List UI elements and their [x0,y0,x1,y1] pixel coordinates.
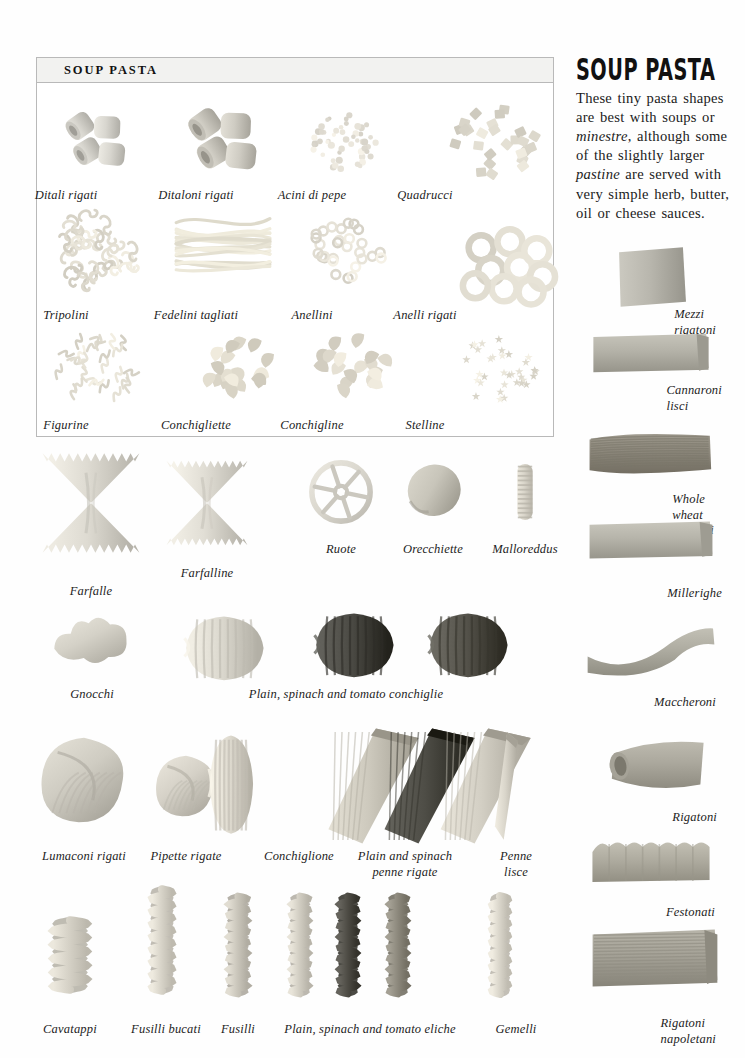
rail-pasta-image-6 [590,837,712,887]
conchiglie-row-image-2 [311,610,397,680]
rail-pasta-caption-1: Cannaroni lisci [666,383,722,414]
soup-pasta-image-9 [187,334,273,396]
fusilli-row-image-4 [335,893,361,997]
penne-row-caption-1: Pipette rigate [150,849,221,865]
soup-pasta-panel-header: SOUP PASTA [37,58,553,83]
soup-pasta-caption-3: Quadrucci [397,188,452,204]
fusilli-row-group-caption: Plain, spinach and tomato eliche [284,1022,455,1038]
rail-pasta-image-1 [591,332,711,374]
sidebar-text-run: These tiny pasta shapes are best with so… [576,90,724,125]
soup-pasta-caption-7: Anelli rigati [393,308,456,324]
rail-pasta-caption-3: Millerighe [667,586,722,602]
farfalle-row-caption-1: Farfalline [181,566,234,582]
conchiglie-row-image-0 [51,614,133,672]
conchiglie-row-group-caption: Plain, spinach and tomato conchiglie [249,687,443,703]
farfalle-row-image-3 [402,463,464,521]
fusilli-row-image-0 [47,918,93,992]
fusilli-row-image-1 [147,886,177,994]
soup-pasta-caption-0: Ditali rigati [35,188,98,204]
farfalle-row-caption-3: Orecchiette [403,542,463,558]
soup-pasta-image-10 [315,339,395,397]
fusilli-row-caption-2: Fusilli [221,1022,255,1038]
farfalle-row-image-0 [36,449,146,557]
fusilli-row-image-2 [224,893,252,997]
rail-pasta-caption-5: Rigatoni [672,810,717,826]
soup-pasta-panel-title: SOUP PASTA [37,63,158,78]
soup-pasta-caption-2: Acini di pepe [278,188,347,204]
soup-pasta-image-4 [54,213,136,287]
penne-row-caption-0: Lumaconi rigati [42,849,126,865]
conchiglie-row-caption-0: Gnocchi [70,687,114,703]
farfalle-row-caption-2: Ruote [326,542,356,558]
soup-pasta-sidebar: SOUP PASTA These tiny pasta shapes are b… [576,52,736,223]
penne-row-image-3 [325,726,495,846]
fusilli-row-image-5 [385,893,411,997]
soup-pasta-caption-11: Stelline [405,418,444,434]
soup-pasta-caption-6: Anellini [291,308,332,324]
soup-pasta-image-0 [57,105,133,175]
fusilli-row-caption-6: Gemelli [496,1022,537,1038]
conchiglie-row-image-1 [181,613,267,683]
penne-row-image-4 [494,730,538,842]
pasta-reference-page: SOUP PASTA Ditali rigatiDitaloni rigatiA… [0,0,745,1058]
penne-row-image-0 [40,734,128,826]
penne-row-caption-4: Penne lisce [500,849,532,880]
farfalle-row-caption-4: Malloreddus [492,542,558,558]
conchiglie-row-image-3 [425,610,511,680]
soup-pasta-caption-9: Conchigliette [161,418,231,434]
sidebar-italic-term: pastine [576,166,620,182]
fusilli-row-caption-0: Cavatappi [43,1022,97,1038]
farfalle-row-caption-0: Farfalle [70,584,113,600]
sidebar-italic-term: minestre [576,128,628,144]
penne-row-caption-3: Plain and spinach penne rigate [358,849,452,880]
farfalle-row-image-4 [513,461,537,523]
fusilli-row-image-3 [287,893,313,997]
soup-pasta-image-8 [56,332,140,404]
soup-pasta-image-5 [170,210,274,280]
rail-pasta-caption-4: Maccheroni [654,695,716,711]
rail-pasta-image-5 [601,737,709,795]
penne-row-image-2 [207,730,255,838]
soup-pasta-caption-10: Conchigline [280,418,343,434]
rail-pasta-caption-7: Rigatoni napoletani [661,1016,716,1047]
rail-pasta-image-7 [590,927,720,989]
penne-row-caption-2: Conchiglione [264,849,334,865]
rail-pasta-image-2 [587,430,715,478]
fusilli-row-caption-1: Fusilli bucati [131,1022,201,1038]
rail-pasta-image-0 [613,246,689,308]
soup-pasta-image-3 [448,107,548,179]
soup-pasta-image-1 [179,101,265,179]
farfalle-row-image-1 [161,457,253,549]
sidebar-description: These tiny pasta shapes are best with so… [576,89,736,223]
soup-pasta-image-2 [310,113,380,173]
soup-pasta-caption-5: Fedelini tagliati [154,308,238,324]
soup-pasta-caption-1: Ditaloni rigati [158,188,234,204]
fusilli-row-image-6 [488,893,512,997]
soup-pasta-image-11 [453,337,541,403]
soup-pasta-caption-8: Figurine [43,418,88,434]
soup-pasta-image-7 [460,225,556,301]
soup-pasta-caption-4: Tripolini [43,308,89,324]
farfalle-row-image-2 [310,461,372,523]
sidebar-heading: SOUP PASTA [576,52,723,87]
rail-pasta-caption-6: Festonati [666,905,715,921]
rail-pasta-image-3 [587,520,715,560]
soup-pasta-image-6 [305,221,385,283]
rail-pasta-image-4 [585,623,717,677]
